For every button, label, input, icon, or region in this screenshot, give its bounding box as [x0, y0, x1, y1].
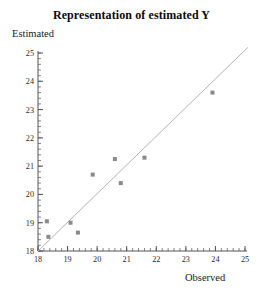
- tick-labels: 18192021222324251819202122232425: [26, 49, 249, 264]
- reference-line: [38, 47, 248, 251]
- svg-text:25: 25: [241, 255, 249, 264]
- svg-text:22: 22: [152, 255, 160, 264]
- svg-text:19: 19: [63, 255, 71, 264]
- svg-text:21: 21: [26, 162, 34, 171]
- svg-text:18: 18: [34, 255, 42, 264]
- svg-text:20: 20: [93, 255, 101, 264]
- svg-text:22: 22: [26, 134, 34, 143]
- svg-text:24: 24: [211, 255, 219, 264]
- svg-text:23: 23: [26, 106, 34, 115]
- svg-text:25: 25: [26, 49, 34, 58]
- svg-text:20: 20: [26, 190, 34, 199]
- svg-text:21: 21: [123, 255, 131, 264]
- chart-figure: Representation of estimated Y Estimated …: [0, 0, 263, 296]
- plot-area: 18192021222324251819202122232425: [0, 0, 263, 296]
- svg-text:19: 19: [26, 219, 34, 228]
- data-points: [45, 91, 215, 239]
- svg-text:24: 24: [26, 77, 34, 86]
- svg-text:23: 23: [182, 255, 190, 264]
- svg-text:18: 18: [26, 247, 34, 256]
